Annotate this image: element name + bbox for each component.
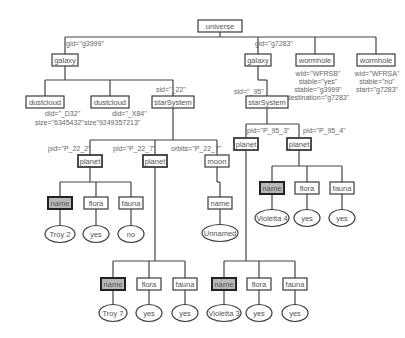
node-label: fauna	[333, 184, 353, 193]
value-node-v_yes4a: yes	[294, 210, 320, 227]
node-label: name	[263, 184, 282, 193]
element-node-planet2: planet	[143, 155, 167, 167]
value-node-v_yes2a: yes	[136, 305, 162, 322]
element-node-planet4: planet	[287, 138, 311, 150]
node-label: Violetta 4	[256, 214, 287, 223]
attribute-label: pid="P_22_7"	[113, 145, 156, 153]
node-label: yes	[301, 214, 313, 223]
xml-tree-diagram: gid="g3999"gid="g7283"wid="WFRSB"stable=…	[0, 0, 405, 338]
element-node-planet1: planet	[78, 155, 102, 167]
attribute-label: wid="WFRSB"	[295, 70, 341, 77]
attribute-label: size="6345432"	[35, 119, 84, 126]
node-label: planet	[236, 140, 257, 149]
element-node-starSystem1: starSystem	[152, 96, 194, 108]
element-node-flora1: flora	[84, 197, 108, 209]
element-node-moonname: name	[208, 197, 232, 209]
node-label: planet	[80, 157, 101, 166]
element-node-fauna1: fauna	[119, 197, 143, 209]
node-label: dustcloud	[94, 98, 126, 107]
element-node-name2: name	[101, 278, 125, 290]
attribute-label: stable="yes"	[299, 78, 338, 86]
value-node-v_yes1: yes	[83, 226, 109, 243]
attribute-label: did="_D32"	[45, 110, 81, 118]
node-label: name	[104, 280, 123, 289]
node-label: yes	[90, 230, 102, 239]
node-label: wormhole	[298, 56, 332, 65]
nodes-layer: universegalaxygalaxywormholewormholedust…	[26, 20, 395, 322]
attribute-label: pid="P_95_3"	[247, 127, 290, 135]
node-label: yes	[336, 214, 348, 223]
node-label: starSystem	[154, 98, 192, 107]
value-node-v_yes4b: yes	[329, 210, 355, 227]
element-node-fauna2: fauna	[173, 278, 197, 290]
node-label: fauna	[176, 280, 196, 289]
node-label: planet	[289, 140, 310, 149]
attribute-label: pid="P_22_2"	[48, 145, 91, 153]
element-node-flora4: flora	[295, 182, 319, 194]
attributes-layer: gid="g3999"gid="g7283"wid="WFRSB"stable=…	[35, 40, 400, 153]
node-label: flora	[89, 199, 104, 208]
value-node-v_troy2: Troy 2	[45, 226, 75, 243]
value-node-v_yes3a: yes	[246, 305, 272, 322]
attribute-label: pid="P_95_4"	[303, 127, 346, 135]
element-node-wormhole2: wormhole	[357, 54, 395, 66]
node-label: dustcloud	[29, 98, 61, 107]
value-node-v_no1: no	[118, 226, 144, 243]
element-node-fauna3: fauna	[283, 278, 307, 290]
value-node-v_troy7: Troy 7	[99, 305, 127, 322]
node-label: name	[211, 199, 230, 208]
value-node-v_violetta4: Violetta 4	[255, 210, 289, 227]
element-node-flora2: flora	[137, 278, 161, 290]
attribute-label: wid="WFRSA"	[354, 70, 400, 77]
element-node-dustcloud2: dustcloud	[91, 96, 129, 108]
element-node-name3: name	[212, 278, 236, 290]
node-label: yes	[289, 309, 301, 318]
attribute-label: size"9249357213"	[84, 119, 141, 126]
node-label: galaxy	[247, 56, 269, 65]
node-label: Unnamed	[204, 229, 237, 238]
node-label: flora	[300, 184, 315, 193]
attribute-label: did="_X84"	[112, 110, 147, 118]
node-label: moon	[208, 157, 227, 166]
node-label: no	[127, 230, 135, 239]
node-label: Violetta 3	[208, 309, 239, 318]
element-node-galaxy1: galaxy	[52, 54, 78, 66]
attribute-label: gid="g3999"	[66, 40, 104, 48]
node-label: yes	[143, 309, 155, 318]
node-label: name	[215, 280, 234, 289]
element-node-flora3: flora	[247, 278, 271, 290]
attribute-label: sid="_22"	[156, 86, 186, 94]
attribute-label: sid="_95"	[234, 88, 264, 96]
node-label: planet	[145, 157, 166, 166]
value-node-v_unnamed: Unnamed	[202, 225, 238, 242]
element-node-universe: universe	[198, 20, 242, 32]
attribute-label: orbits="P_22_7"	[171, 145, 222, 153]
node-label: name	[51, 199, 70, 208]
node-label: flora	[142, 280, 157, 289]
node-label: starSystem	[248, 98, 286, 107]
node-label: Troy 7	[103, 309, 124, 318]
element-node-starSystem2: starSystem	[246, 96, 288, 108]
attribute-label: stable="g3999"	[294, 86, 342, 94]
value-node-v_yes3b: yes	[282, 305, 308, 322]
element-node-name1: name	[48, 197, 72, 209]
value-node-v_yes2b: yes	[172, 305, 198, 322]
value-node-v_violetta3: Violetta 3	[207, 305, 241, 322]
element-node-name4: name	[260, 182, 284, 194]
node-label: Troy 2	[50, 230, 71, 239]
attribute-label: destination="g7283"	[287, 94, 350, 102]
element-node-fauna4: fauna	[330, 182, 354, 194]
element-node-dustcloud1: dustcloud	[26, 96, 64, 108]
attribute-label: gid="g7283"	[255, 40, 293, 48]
node-label: yes	[179, 309, 191, 318]
element-node-galaxy2: galaxy	[245, 54, 271, 66]
element-node-wormhole1: wormhole	[296, 54, 334, 66]
node-label: yes	[253, 309, 265, 318]
node-label: wormhole	[359, 56, 393, 65]
element-node-planet3: planet	[234, 138, 258, 150]
node-label: fauna	[286, 280, 306, 289]
element-node-moon: moon	[205, 155, 229, 167]
node-label: fauna	[122, 199, 142, 208]
attribute-label: stable="no"	[359, 78, 395, 85]
node-label: flora	[252, 280, 267, 289]
